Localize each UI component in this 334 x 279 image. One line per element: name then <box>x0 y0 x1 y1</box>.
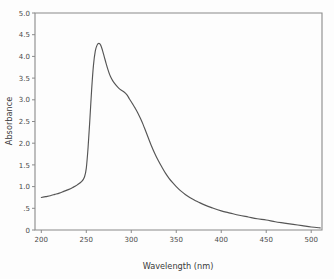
y-tick-label: 2.5 <box>19 118 30 126</box>
y-tick-label: 4.5 <box>19 31 30 39</box>
y-axis-title: Absorbance <box>4 97 14 145</box>
y-tick-label: 4.0 <box>19 53 30 61</box>
x-tick-label: 400 <box>215 236 228 244</box>
spectrum-plot: 0.51.01.52.02.53.03.54.04.55.0 200250300… <box>0 0 334 279</box>
figure-background <box>0 0 334 279</box>
y-tick-label: 3.0 <box>19 96 30 104</box>
x-axis-title: Wavelength (nm) <box>143 261 214 271</box>
x-tick-label: 200 <box>35 236 48 244</box>
y-tick-label: 5.0 <box>19 10 30 18</box>
x-tick-label: 350 <box>170 236 183 244</box>
y-tick-label: 3.5 <box>19 75 30 83</box>
y-tick-label: 1.5 <box>19 162 30 170</box>
y-tick-label: .5 <box>23 205 30 213</box>
y-tick-label: 2.0 <box>19 140 30 148</box>
x-tick-label: 300 <box>125 236 138 244</box>
x-tick-label: 250 <box>80 236 93 244</box>
y-tick-label: 0 <box>26 227 30 235</box>
x-tick-label: 500 <box>305 236 318 244</box>
absorbance-spectrum-figure: 0.51.01.52.02.53.03.54.04.55.0 200250300… <box>0 0 334 279</box>
x-tick-label: 450 <box>260 236 273 244</box>
y-tick-label: 1.0 <box>19 183 30 191</box>
